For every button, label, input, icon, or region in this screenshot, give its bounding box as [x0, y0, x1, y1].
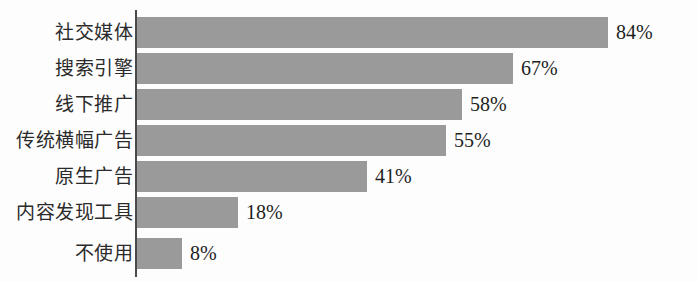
bar: [137, 238, 182, 269]
category-label: 不使用: [75, 238, 134, 269]
category-label: 内容发现工具: [16, 197, 133, 228]
category-label: 原生广告: [55, 161, 133, 192]
bar-value-label: 58%: [470, 89, 507, 120]
bar-value-label: 84%: [616, 17, 653, 48]
bar-value-label: 41%: [375, 161, 412, 192]
bar-value-label: 67%: [521, 53, 558, 84]
bar-row: 内容发现工具 18%: [0, 197, 698, 228]
bar-value-label: 8%: [190, 238, 217, 269]
bar-row: 原生广告 41%: [0, 161, 698, 192]
bar-row: 传统横幅广告 55%: [0, 125, 698, 156]
category-label: 社交媒体: [55, 17, 133, 48]
bar-value-label: 55%: [454, 125, 491, 156]
bar: [137, 197, 238, 228]
bar-chart: 社交媒体 84% 搜索引擎 67% 线下推广 58% 传统横幅广告 55% 原生…: [0, 0, 698, 282]
bar: [137, 53, 513, 84]
bar-row: 不使用 8%: [0, 238, 698, 269]
bar: [137, 89, 462, 120]
bar: [137, 125, 446, 156]
category-label: 传统横幅广告: [16, 125, 133, 156]
bar: [137, 17, 608, 48]
bar-row: 社交媒体 84%: [0, 17, 698, 48]
bar-row: 搜索引擎 67%: [0, 53, 698, 84]
category-label: 线下推广: [55, 89, 133, 120]
category-label: 搜索引擎: [55, 53, 133, 84]
bar: [137, 161, 367, 192]
bar-value-label: 18%: [246, 197, 283, 228]
bar-row: 线下推广 58%: [0, 89, 698, 120]
